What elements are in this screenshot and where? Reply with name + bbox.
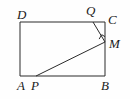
vertex-label-b: B <box>101 79 109 92</box>
rectangle-abcd <box>20 22 105 76</box>
construction-segments <box>36 22 105 76</box>
segment-pm <box>36 42 105 76</box>
geometry-figure: D Q C M A P B <box>0 0 130 99</box>
vertex-label-m: M <box>109 37 120 50</box>
vertex-label-c: C <box>108 13 117 26</box>
vertex-label-p: P <box>31 79 39 92</box>
vertex-label-q: Q <box>86 4 95 17</box>
vertex-label-d: D <box>17 8 26 21</box>
vertex-label-a: A <box>17 79 25 92</box>
